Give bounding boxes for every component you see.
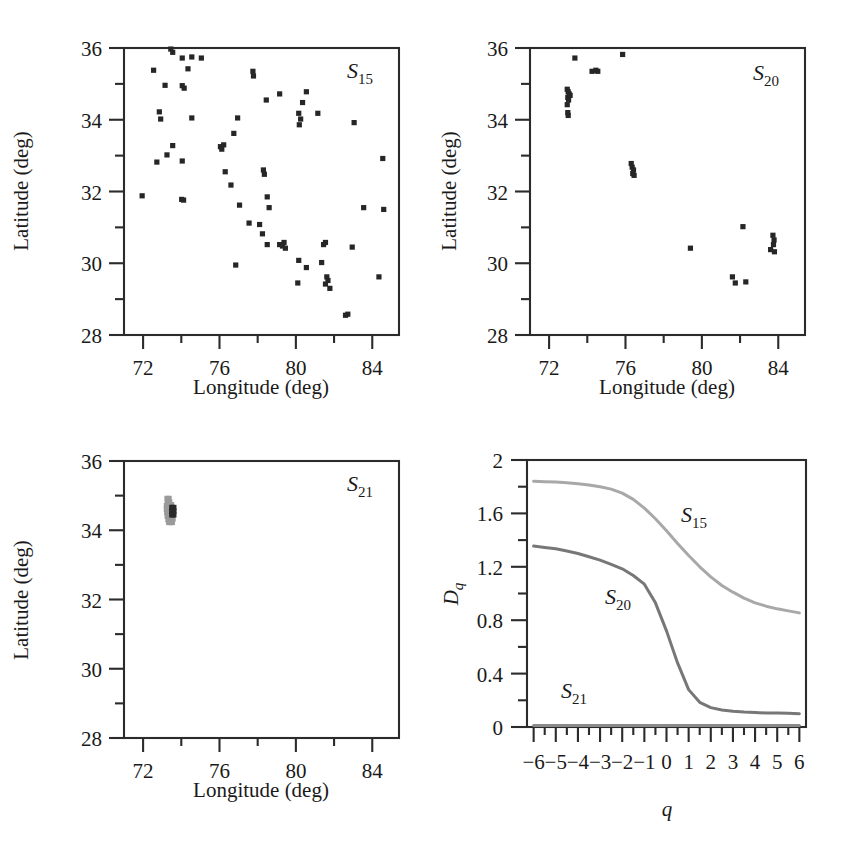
s15-ytick-label: 30 [81,252,102,276]
s21-tick-labels: 727680842830323436 [81,450,383,783]
scatter-point [158,116,163,121]
s21-ytick-label: 36 [81,450,102,474]
scatter-point [572,55,577,60]
s15-ytick-label: 36 [81,37,102,61]
s20-ytick-label: 28 [487,324,508,348]
scatter-point [566,97,571,102]
scatter-point [250,69,255,74]
s21-yaxis-title: Latitude (deg) [9,540,33,660]
scatter-point [140,193,145,198]
scatter-point [237,203,242,208]
scatter-point [566,113,571,118]
scatter-point [376,274,381,279]
scatter-point [185,66,190,71]
s15-data-points [140,46,387,317]
s20-panel-label: S20 [753,60,779,89]
scatter-point [298,116,303,121]
dq-yaxis-title: Dq [439,582,466,606]
dq-plot-svg: −6−5−4−3−2−1012345600.40.81.21.62 q Dq S… [426,426,852,852]
s20-frame-group [530,48,805,335]
s20-data-points [565,52,777,286]
multi-panel-figure: 727680842830323436 Longitude (deg) Latit… [0,0,852,852]
dq-xtick-label: 5 [772,750,783,774]
s21-xtick-label: 72 [133,759,154,783]
scatter-point [221,142,226,147]
scatter-point [189,54,194,59]
scatter-point [281,240,286,245]
s15-ytick-label: 32 [81,181,102,205]
s15-plot-frame [124,48,399,335]
scatter-point [262,172,267,177]
scatter-point [304,265,309,270]
scatter-point [304,89,309,94]
s15-xaxis-title: Longitude (deg) [193,375,329,399]
dq-ytick-label: 0.8 [477,609,503,633]
dq-ytick-label: 1.2 [477,556,503,580]
s20-xtick-label: 84 [768,356,790,380]
scatter-point [296,111,301,116]
scatter-point [257,222,262,227]
s20-ytick-label: 32 [487,181,508,205]
dq-ytick-label: 0 [493,716,504,740]
s21-ytick-label: 28 [81,727,102,751]
s15-ytick-label: 34 [81,109,103,133]
scatter-point [170,143,175,148]
scatter-point [264,97,269,102]
s21-tick-group [109,461,372,752]
dq-xtick-label: 4 [750,750,761,774]
s20-plot-frame [530,48,805,335]
scatter-point [631,173,636,178]
scatter-point [771,242,776,247]
scatter-point [162,83,167,88]
s20-plot-svg: 727680842830323436 Longitude (deg) Latit… [426,0,852,426]
scatter-point [319,260,324,265]
scatter-point-dark [171,512,177,518]
dq-curve-s15 [534,481,800,613]
scatter-point [688,246,693,251]
scatter-point [300,100,305,105]
s15-xtick-label: 72 [133,356,154,380]
dq-curve-s20 [534,546,800,714]
panel-s21-scatter: 727680842830323436 Longitude (deg) Latit… [0,426,426,852]
scatter-point [323,240,328,245]
dq-xtick-label: 6 [794,750,805,774]
dq-xtick-label: 1 [683,750,694,774]
scatter-point [180,158,185,163]
s21-ytick-label: 32 [81,589,102,613]
dq-xaxis-title: q [662,797,673,821]
scatter-point [189,115,194,120]
s21-plot-svg: 727680842830323436 Longitude (deg) Latit… [0,426,426,852]
s20-yaxis-title: Latitude (deg) [437,131,461,251]
dq-xtick-label: 3 [728,750,739,774]
scatter-point [296,258,301,263]
s21-ytick-label: 34 [81,519,103,543]
scatter-point [228,182,233,187]
scatter-point [315,111,320,116]
scatter-point [730,274,735,279]
scatter-point [199,55,204,60]
s15-frame-group [124,48,399,335]
scatter-point [772,249,777,254]
s15-panel-label: S15 [347,58,373,87]
scatter-point [770,233,775,238]
scatter-point [380,156,385,161]
scatter-point [233,262,238,267]
dq-label-s15: S15 [681,502,707,531]
scatter-point [260,231,265,236]
scatter-point [235,115,240,120]
s20-xtick-label: 72 [539,356,560,380]
dq-xtick-label: −4 [567,750,590,774]
s15-xtick-label: 84 [362,356,384,380]
dq-xtick-label: −6 [522,750,544,774]
scatter-point [297,122,302,127]
scatter-point [157,109,162,114]
panel-s15-scatter: 727680842830323436 Longitude (deg) Latit… [0,0,426,426]
s21-data-points [164,496,177,525]
dq-ytick-label: 2 [493,449,504,473]
s20-tick-labels: 727680842830323436 [487,37,789,380]
s15-yaxis-title: Latitude (deg) [9,131,33,251]
s20-ytick-label: 34 [487,109,509,133]
s21-xaxis-title: Longitude (deg) [193,778,329,802]
panel-s20-scatter: 727680842830323436 Longitude (deg) Latit… [426,0,852,426]
dq-xtick-label: 2 [706,750,717,774]
